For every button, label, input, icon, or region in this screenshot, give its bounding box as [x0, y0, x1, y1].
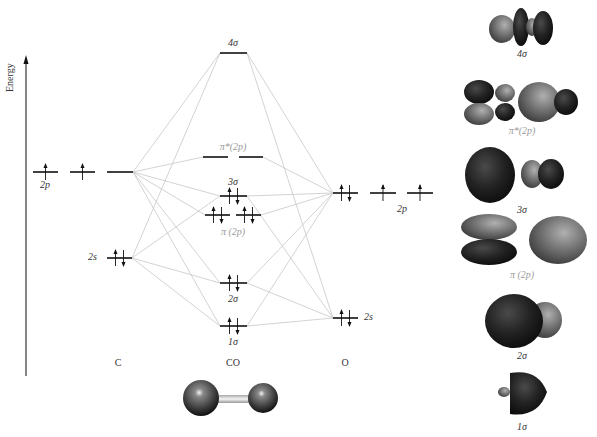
axis-arrow-icon [24, 55, 29, 64]
energy-axis-label: Energy [4, 63, 15, 92]
orbital-image-4sigma-caption: 4σ [517, 48, 527, 59]
energy-axis [24, 55, 29, 376]
orbital-3sigma-image [465, 147, 564, 203]
column-label-c: C [115, 357, 122, 368]
oxygen-atom-ball [248, 383, 278, 413]
orbital-image-pistar-caption: π*(2p) [509, 125, 536, 136]
co-molecule-model [183, 380, 278, 416]
orbital-image-1sigma-caption: 1σ [517, 421, 527, 432]
c-2s-label: 2s [88, 251, 97, 262]
orbital-pi-image [461, 214, 587, 265]
mo-4sigma-label: 4σ [228, 37, 238, 48]
mo-pistar-label: π*(2p) [220, 141, 247, 152]
orbital-1sigma-image [498, 372, 547, 414]
correlation-lines [132, 53, 333, 326]
orbital-image-pi-caption: π (2p) [510, 269, 534, 280]
orbital-4sigma-image [489, 8, 553, 46]
o-2s-label: 2s [364, 311, 373, 322]
orbital-image-2sigma-caption: 2σ [517, 350, 527, 361]
mo-pi-label: π (2p) [221, 226, 245, 237]
o-2p-label: 2p [397, 203, 407, 214]
mo-2sigma-label: 2σ [228, 293, 238, 304]
column-label-o: O [341, 357, 348, 368]
orbital-image-3sigma-caption: 3σ [517, 204, 527, 215]
c-2p-label: 2p [40, 179, 50, 190]
orbital-pistar-image [464, 80, 578, 125]
orbital-2sigma-image [485, 294, 562, 348]
column-label-co: CO [226, 357, 240, 368]
mo-3sigma-label: 3σ [228, 176, 238, 187]
mo-1sigma-label: 1σ [228, 336, 238, 347]
carbon-atom-ball [183, 380, 219, 416]
mo-diagram [0, 0, 597, 437]
